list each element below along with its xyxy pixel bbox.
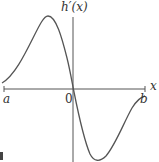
edge-artifact: [0, 152, 3, 160]
graph-canvas: [0, 0, 159, 162]
x-axis-label: x: [150, 80, 157, 92]
right-endpoint-label: b: [140, 93, 148, 105]
left-endpoint-label: a: [3, 93, 10, 105]
derivative-graph: h′(x) x a 0 b: [0, 0, 159, 162]
y-axis-label: h′(x): [61, 1, 88, 13]
origin-label: 0: [65, 93, 73, 105]
